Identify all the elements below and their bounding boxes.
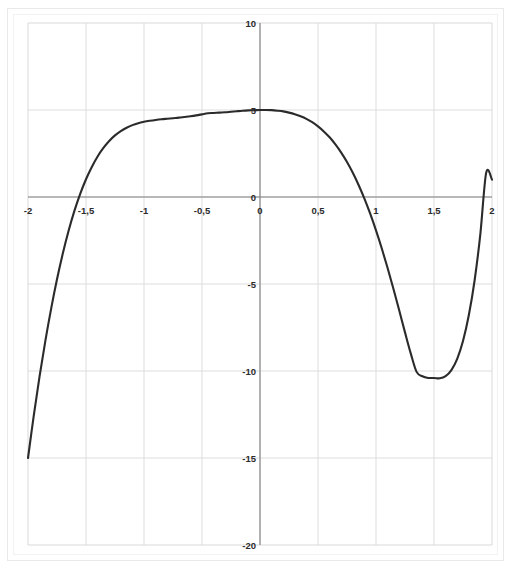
x-tick-label: -0,5 [194, 205, 210, 216]
figure-container: -2-1,5-1-0,500,511,52 1050-5-10-15-20 [0, 0, 512, 569]
x-tick-label: 1,5 [427, 205, 440, 216]
x-tick-label: 1 [373, 205, 378, 216]
y-tick-label: -15 [234, 453, 256, 464]
y-tick-label: 10 [234, 18, 256, 29]
x-tick-label: 0,5 [311, 205, 324, 216]
function-plot [0, 0, 512, 569]
y-tick-label: -20 [234, 540, 256, 551]
x-tick-label: 0 [257, 205, 262, 216]
x-tick-label: -1 [140, 205, 148, 216]
y-tick-label: 0 [234, 192, 256, 203]
y-tick-label: -10 [234, 366, 256, 377]
y-tick-label: -5 [234, 279, 256, 290]
x-tick-label: -1,5 [78, 205, 94, 216]
x-tick-label: -2 [24, 205, 32, 216]
y-tick-label: 5 [234, 105, 256, 116]
x-tick-label: 2 [489, 205, 494, 216]
